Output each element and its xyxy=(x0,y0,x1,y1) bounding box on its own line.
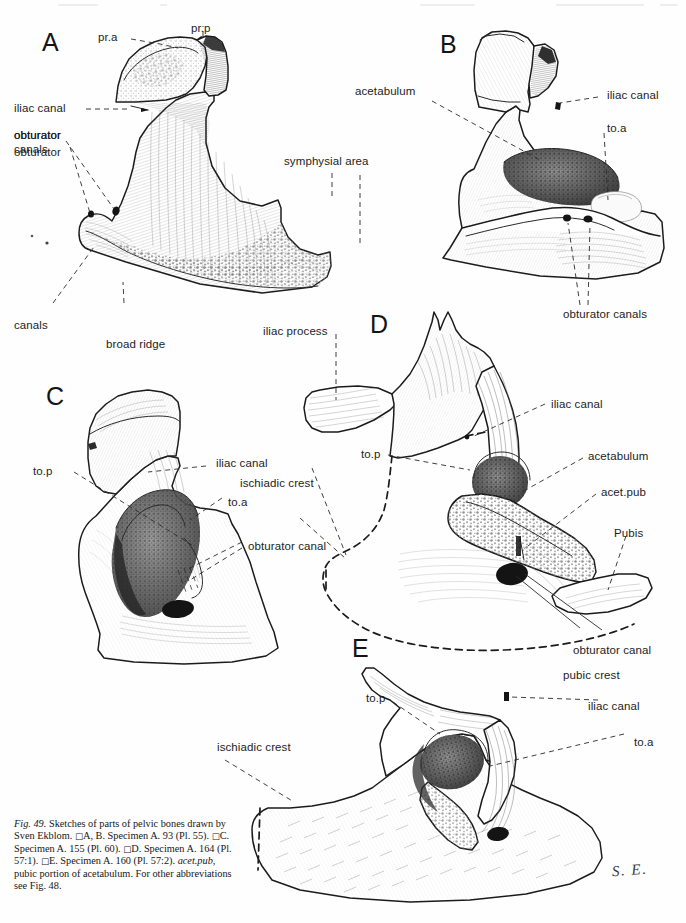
label-obturator-canals-b: obturator canals xyxy=(563,308,647,322)
label-iliac-canal-c: iliac canal xyxy=(216,457,268,471)
panel-letter-a: A xyxy=(42,28,59,57)
label-obturator-canals-a: obturator xyxy=(14,129,61,143)
label-iliac-canal-b: iliac canal xyxy=(607,89,659,103)
label-broad-ridge: canals xyxy=(14,319,48,333)
figure-caption: Fig. 49. Sketches of parts of pelvic bon… xyxy=(14,818,232,892)
panel-letter-b: B xyxy=(440,30,457,59)
leader-ischiadic-crest-e xyxy=(225,760,294,802)
label-obturator-canal-d: obturator canal xyxy=(573,644,651,658)
leader-acetabulum-d xyxy=(522,458,583,492)
leader-broad-ridge xyxy=(53,247,94,303)
label-acet-pub-d: acet.pub xyxy=(601,486,646,500)
label-to-p-d: to.p xyxy=(361,448,381,462)
label-acetabulum-b: acetabulum xyxy=(355,85,415,99)
label-pr-p: pr.p xyxy=(191,22,211,36)
label-pubis-d: Pubis xyxy=(614,527,643,541)
label-acetabulum-d: acetabulum xyxy=(588,450,648,464)
panel-letter-e: E xyxy=(352,634,369,663)
panel-b-drawing xyxy=(360,31,664,305)
caption-line-1: Sketches of parts of pelvic bones drawn xyxy=(49,818,213,829)
leader-iliac-canal-e xyxy=(510,697,598,700)
label-ischiadic-crest-e: ischiadic crest xyxy=(217,741,291,755)
label-iliac-process-d: iliac process xyxy=(263,325,328,339)
caption-bullet-e: □ xyxy=(41,856,49,866)
label-iliac-canal-e: iliac canal xyxy=(588,700,640,714)
label-to-a-e: to.a xyxy=(634,736,654,750)
caption-bullet-c: □ xyxy=(212,831,220,841)
leader-symphysial-area xyxy=(123,282,124,303)
pelvic-bone-sketches xyxy=(0,0,686,923)
panel-e-drawing xyxy=(225,668,624,902)
label-obturator-canals-a-line2: obturator xyxy=(14,146,61,160)
leader-obturator-canals-a2 xyxy=(70,147,90,213)
leader-obturator-canals-a1 xyxy=(66,141,114,209)
caption-bullet-ab: □ xyxy=(75,831,83,841)
leader-iliac-canal-b xyxy=(560,97,598,103)
caption-abbrev-term: acet.pub, xyxy=(178,855,216,866)
panel-letter-c: C xyxy=(46,382,65,411)
label-ischiadic-crest-a: symphysial area xyxy=(284,155,369,169)
panel-letter-d: D xyxy=(370,310,389,339)
label-ischiadic-crest-c: ischiadic crest xyxy=(240,477,314,491)
artist-signature: S. E. xyxy=(611,861,648,880)
label-iliac-canal-a: iliac canal xyxy=(14,102,66,116)
caption-abbrev-def: pubic portion of acetabulum. xyxy=(14,868,133,879)
label-pubic-crest-d: pubic crest xyxy=(563,669,620,683)
label-pr-a: pr.a xyxy=(98,31,118,45)
panel-c-drawing xyxy=(74,390,278,664)
label-to-p-c: to.p xyxy=(33,465,53,479)
leader-to-p-d xyxy=(388,455,470,470)
label-obturator-canal-c: obturator canal xyxy=(248,540,326,554)
label-to-a-c: to.a xyxy=(228,496,248,510)
figure-page: A B C D E pr.a pr.p iliac canal obturato… xyxy=(0,0,686,923)
label-symphysial-area: broad ridge xyxy=(106,338,165,352)
label-iliac-canal-d: iliac canal xyxy=(551,398,603,412)
caption-entry-ab: A, B. Specimen A. 93 (Pl. 55). xyxy=(83,830,209,841)
label-to-a-b: to.a xyxy=(607,122,627,136)
caption-fig-number: Fig. 49. xyxy=(14,818,46,829)
caption-entry-e: E. Specimen A. 160 (Pl. 57:2). xyxy=(49,855,175,866)
label-to-p-e: to.p xyxy=(366,692,386,706)
panel-d-drawing xyxy=(300,312,652,650)
